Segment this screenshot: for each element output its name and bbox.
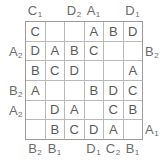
grid-cell-r1c5[interactable]: B [104,22,124,42]
grid-cell-r4c6[interactable]: C [124,81,144,101]
clue-top-col1: C1 [25,4,45,19]
clue-count: 2 [116,148,120,157]
clue-letter: C [106,141,115,156]
grid-cell-r1c3[interactable] [65,22,85,42]
grid-cell-r2c2[interactable]: A [46,42,66,62]
grid-cell-r6c1[interactable] [26,120,46,140]
grid-cell-r5c1[interactable] [26,101,46,121]
clue-count: 2 [77,10,81,19]
clue-top-col6: D1 [123,4,143,19]
clue-count: 1 [135,10,139,19]
grid-cell-r4c2[interactable] [46,81,66,101]
grid-cell-r2c1[interactable]: D [26,42,46,62]
grid-cell-r1c1[interactable]: C [26,22,46,42]
clue-bottom-col4: D1 [84,142,104,157]
clue-letter: B [145,44,154,59]
clue-letter: A [9,103,18,118]
clue-count: 1 [38,10,42,19]
grid-cell-r6c2[interactable]: B [46,120,66,140]
grid-cell-r4c5[interactable]: D [104,81,124,101]
clue-letter: D [86,141,95,156]
grid-cell-r2c4[interactable]: C [85,42,105,62]
clue-count: 1 [96,148,100,157]
puzzle-container: C1D2A1D1B2B1D1C2B1A2B2A2B2A1 CABDDABCBCD… [0,0,168,162]
grid-cell-r6c4[interactable]: D [85,120,105,140]
clue-left-row4: B2 [0,84,22,99]
grid-cell-r5c2[interactable]: D [46,101,66,121]
clue-letter: B [48,141,57,156]
grid-cell-r6c3[interactable]: C [65,120,85,140]
grid-cell-r4c1[interactable]: A [26,81,46,101]
letter-grid[interactable]: CABDDABCBCDAABDCDACBBCDA [25,21,143,140]
clue-letter: D [67,3,76,18]
clue-top-col3: D2 [64,4,84,19]
grid-cell-r6c6[interactable] [124,120,144,140]
clue-count: 1 [154,129,158,138]
grid-cell-r1c2[interactable] [46,22,66,42]
grid-cell-r1c6[interactable]: D [124,22,144,42]
grid-cell-r5c3[interactable]: A [65,101,85,121]
grid-cell-r3c4[interactable] [85,61,105,81]
clue-letter: A [87,3,96,18]
clue-right-row2: B2 [145,45,167,60]
clue-letter: C [28,3,37,18]
clue-count: 1 [96,10,100,19]
grid-cell-r5c4[interactable] [85,101,105,121]
clue-count: 1 [135,148,139,157]
grid-cell-r2c5[interactable] [104,42,124,62]
grid-cell-r6c5[interactable]: A [104,120,124,140]
clue-count: 2 [18,110,22,119]
clue-count: 2 [37,148,41,157]
clue-count: 1 [57,148,61,157]
clue-letter: B [28,141,37,156]
clue-right-row6: A1 [145,123,167,138]
grid-cell-r3c3[interactable]: D [65,61,85,81]
grid-cell-r4c4[interactable]: B [85,81,105,101]
clue-count: 2 [18,51,22,60]
clue-bottom-col5: C2 [103,142,123,157]
grid-cell-r5c5[interactable]: C [104,101,124,121]
clue-bottom-col6: B1 [123,142,143,157]
clue-letter: A [9,44,18,59]
clue-letter: B [9,83,18,98]
grid-cell-r3c5[interactable] [104,61,124,81]
clue-letter: B [126,141,135,156]
grid-cell-r1c4[interactable]: A [85,22,105,42]
grid-cell-r3c1[interactable]: B [26,61,46,81]
clue-count: 2 [154,51,158,60]
clue-left-row5: A2 [0,104,22,119]
clue-count: 2 [18,90,22,99]
clue-left-row2: A2 [0,45,22,60]
clue-bottom-col1: B2 [25,142,45,157]
grid-cell-r3c2[interactable]: C [46,61,66,81]
clue-letter: D [125,3,134,18]
grid-cell-r3c6[interactable]: A [124,61,144,81]
grid-cell-r2c6[interactable] [124,42,144,62]
grid-cell-r5c6[interactable]: B [124,101,144,121]
clue-letter: A [145,122,154,137]
grid-cell-r2c3[interactable]: B [65,42,85,62]
grid-cell-r4c3[interactable] [65,81,85,101]
clue-bottom-col2: B1 [45,142,65,157]
clue-top-col4: A1 [84,4,104,19]
